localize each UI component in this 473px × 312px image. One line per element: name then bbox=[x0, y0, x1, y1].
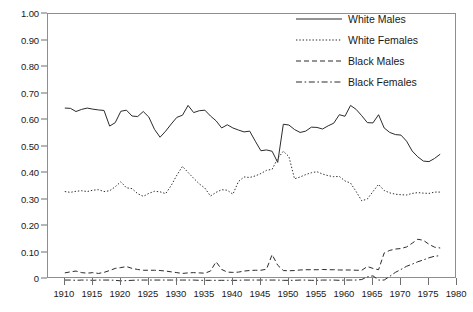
y-tick-label: 0.30 bbox=[21, 193, 39, 204]
series-line-white-females bbox=[65, 151, 440, 201]
y-tick-label: 0 bbox=[34, 273, 39, 284]
legend-item-label: White Females bbox=[343, 34, 418, 46]
y-tick-label: 0.20 bbox=[21, 220, 39, 231]
x-tick-mark bbox=[344, 278, 345, 285]
x-tick-mark bbox=[92, 278, 93, 285]
x-tick-mark bbox=[428, 278, 429, 285]
legend-item-white-females[interactable]: White Females bbox=[295, 29, 455, 50]
x-tick-mark bbox=[372, 278, 373, 285]
legend-item-black-females[interactable]: Black Females bbox=[295, 71, 455, 92]
x-tick-label: 1960 bbox=[334, 288, 355, 299]
legend-item-label: Black Males bbox=[343, 55, 405, 67]
x-tick-mark bbox=[120, 278, 121, 285]
y-tick-label: 0.70 bbox=[21, 87, 39, 98]
x-tick-label: 1915 bbox=[81, 288, 102, 299]
x-tick-label: 1975 bbox=[418, 288, 439, 299]
x-tick-label: 1920 bbox=[109, 288, 130, 299]
x-tick-mark bbox=[232, 278, 233, 285]
y-axis: 1.000.900.800.700.600.500.400.300.200.10… bbox=[0, 13, 47, 278]
series-line-white-males bbox=[65, 105, 440, 162]
legend-line-sample-icon bbox=[295, 14, 343, 24]
legend: White MalesWhite FemalesBlack MalesBlack… bbox=[295, 5, 455, 92]
x-tick-mark bbox=[316, 278, 317, 285]
legend-item-label: Black Females bbox=[343, 76, 417, 88]
y-tick-label: 1.00 bbox=[21, 8, 39, 19]
x-tick-label: 1965 bbox=[362, 288, 383, 299]
x-tick-mark bbox=[204, 278, 205, 285]
x-tick-label: 1935 bbox=[194, 288, 215, 299]
x-tick-mark bbox=[456, 278, 457, 285]
y-tick-label: 0.80 bbox=[21, 61, 39, 72]
x-tick-mark bbox=[288, 278, 289, 285]
x-tick-label: 1945 bbox=[250, 288, 271, 299]
legend-line-sample-icon bbox=[295, 35, 343, 45]
figure: 1.000.900.800.700.600.500.400.300.200.10… bbox=[0, 0, 473, 312]
y-tick-label: 0.10 bbox=[21, 246, 39, 257]
x-tick-label: 1910 bbox=[53, 288, 74, 299]
x-tick-label: 1925 bbox=[137, 288, 158, 299]
legend-item-white-males[interactable]: White Males bbox=[295, 8, 455, 29]
legend-line-sample-icon bbox=[295, 77, 343, 87]
y-tick-label: 0.60 bbox=[21, 114, 39, 125]
x-tick-mark bbox=[64, 278, 65, 285]
legend-line-sample-icon bbox=[295, 56, 343, 66]
figure-caption bbox=[8, 300, 468, 312]
x-tick-mark bbox=[260, 278, 261, 285]
x-tick-label: 1930 bbox=[165, 288, 186, 299]
x-tick-mark bbox=[400, 278, 401, 285]
x-tick-label: 1950 bbox=[278, 288, 299, 299]
x-tick-label: 1980 bbox=[446, 288, 467, 299]
y-tick-label: 0.90 bbox=[21, 34, 39, 45]
x-tick-mark bbox=[148, 278, 149, 285]
x-tick-label: 1940 bbox=[222, 288, 243, 299]
series-line-black-males bbox=[65, 239, 440, 273]
y-tick-label: 0.50 bbox=[21, 140, 39, 151]
x-tick-label: 1970 bbox=[390, 288, 411, 299]
x-tick-mark bbox=[176, 278, 177, 285]
legend-item-black-males[interactable]: Black Males bbox=[295, 50, 455, 71]
x-tick-label: 1955 bbox=[306, 288, 327, 299]
legend-item-label: White Males bbox=[343, 13, 406, 25]
y-tick-label: 0.40 bbox=[21, 167, 39, 178]
